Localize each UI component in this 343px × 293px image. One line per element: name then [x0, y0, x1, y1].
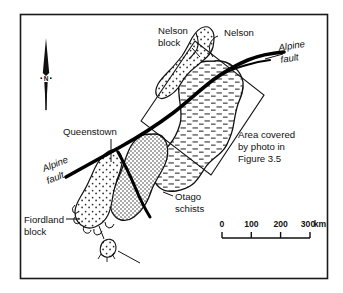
- label-queenstown: Queenstown: [63, 126, 117, 137]
- scale-unit: km: [314, 219, 327, 229]
- north-arrow: N: [41, 38, 52, 112]
- label-nelson-block-line1: Nelson: [158, 25, 188, 36]
- label-photo-area-line2: by photo in: [238, 141, 285, 152]
- scale-tick-2: 200: [273, 219, 288, 229]
- scale-tick-1: 100: [244, 219, 259, 229]
- stewart-island: [100, 239, 116, 257]
- label-nelson: Nelson: [224, 27, 254, 38]
- scale-tick-0: 0: [220, 219, 225, 229]
- figure-panel: N: [0, 0, 343, 293]
- map-svg: N: [0, 0, 343, 293]
- label-fiordland-block-line1: Fiordland: [24, 214, 64, 225]
- label-alpine-fault-ne-line2: fault: [280, 51, 300, 65]
- label-nelson-block-line2: block: [158, 37, 181, 48]
- scale-bar: 0 100 200 300 km: [220, 219, 327, 238]
- north-arrow-label: N: [44, 75, 49, 82]
- label-otago-schists-line2: schists: [175, 203, 205, 214]
- label-otago-schists-line1: Otago: [175, 191, 201, 202]
- label-alpine-fault-ne-line1: Alpine: [277, 38, 306, 53]
- label-photo-area-line1: Area covered: [238, 129, 295, 140]
- label-photo-area-line3: Figure 3.5: [238, 153, 281, 164]
- label-fiordland-block-line2: block: [24, 226, 47, 237]
